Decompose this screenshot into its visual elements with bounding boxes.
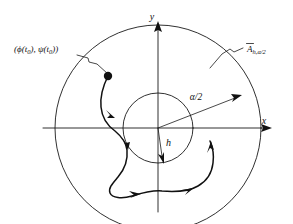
region-leader-line [210, 48, 243, 68]
paren-close: ) [54, 44, 58, 54]
region-subscript: h,α/2 [253, 48, 267, 55]
annulus-trajectory-diagram: x y h α/2 (ϕ(t0), ψ(t0)) Ah,α/2 [0, 0, 293, 224]
initial-condition-dot [104, 72, 112, 80]
figure-container: x y h α/2 (ϕ(t0), ψ(t0)) Ah,α/2 [0, 0, 293, 224]
h-label: h [166, 137, 171, 148]
alpha-half-radius-line [158, 98, 235, 128]
svg-text:Ah,α/2: Ah,α/2 [246, 44, 267, 55]
h-radius-line [158, 128, 162, 156]
region-label: Ah,α/2 [246, 44, 267, 56]
initial-point-label: (ϕ(t0), ψ(t0)) [14, 44, 58, 55]
initial-point-leader-line [77, 55, 108, 74]
h-radius-arrowhead [158, 152, 164, 164]
trajectory-arrowhead-4 [182, 188, 194, 195]
trajectory-arrowhead-1 [106, 110, 115, 118]
alpha-half-arrowhead [231, 94, 242, 102]
alpha-half-label: α/2 [190, 92, 203, 102]
svg-text:(ϕ(t0), ψ(t0)): (ϕ(t0), ψ(t0)) [14, 44, 58, 55]
x-axis-label: x [261, 115, 267, 126]
y-axis-label: y [149, 11, 155, 22]
